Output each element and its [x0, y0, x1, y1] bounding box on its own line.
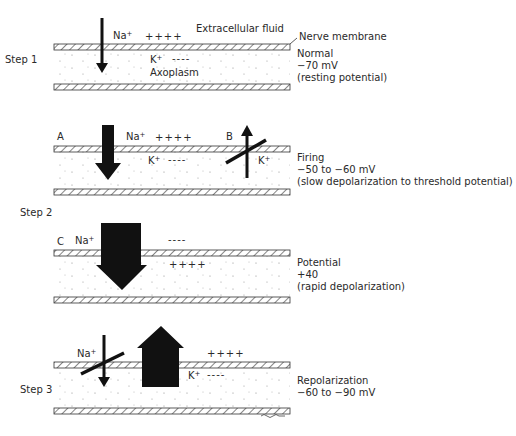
- step1-label: Step 1: [5, 54, 37, 66]
- step2c-state-name: Potential: [297, 257, 341, 269]
- step2a-k2-label: K+: [258, 155, 270, 167]
- k-text: K: [148, 155, 155, 166]
- na-sup: +: [140, 131, 146, 139]
- step1-outside-charge: ++++: [145, 31, 183, 43]
- step3-panel: [54, 326, 290, 418]
- nerve-membrane-label: Nerve membrane: [299, 31, 387, 43]
- step3-state-value: −60 to −90 mV: [297, 387, 375, 399]
- panel-letter-a: A: [57, 131, 64, 143]
- na-text: Na: [126, 131, 140, 142]
- na-sup: +: [91, 348, 97, 356]
- k-sup: +: [155, 155, 161, 163]
- step2a-state-value: −50 to −60 mV: [297, 164, 375, 176]
- step1-k-label: K+: [150, 54, 162, 66]
- na-text: Na: [75, 235, 89, 246]
- step1-inside-charge: ----: [172, 53, 190, 65]
- step2c-membrane-bottom: [54, 297, 290, 303]
- step3-membrane-bottom: [54, 408, 290, 414]
- step2a-k-label: K+: [148, 155, 160, 167]
- step2a-state-note: (slow depolarization to threshold potent…: [297, 176, 513, 188]
- step2a-state-name: Firing: [297, 152, 324, 164]
- k-text: K: [150, 54, 157, 65]
- signature-scribble: [261, 415, 285, 418]
- step2c-state-value: +40: [297, 269, 318, 281]
- k-sup: +: [265, 155, 271, 163]
- extracellular-fluid-label: Extracellular fluid: [196, 23, 284, 35]
- step2a-outside-charge: ++++: [155, 132, 193, 144]
- step2c-inside-charge: ++++: [169, 259, 207, 271]
- step1-state-name: Normal: [297, 48, 333, 60]
- na-text: Na: [113, 30, 127, 41]
- na-text: Na: [77, 348, 91, 359]
- step2c-state-note: (rapid depolarization): [297, 281, 405, 293]
- step2c-na-label: Na+: [75, 235, 94, 247]
- step2c-membrane-top: [54, 250, 290, 256]
- step3-label: Step 3: [20, 384, 52, 396]
- step2-label: Step 2: [20, 207, 52, 219]
- step3-outside-charge: ++++: [207, 348, 245, 360]
- step3-large-k-arrow-icon: [137, 326, 184, 387]
- k-sup: +: [157, 54, 163, 62]
- k-text: K: [188, 370, 195, 381]
- na-sup: +: [89, 235, 95, 243]
- step3-inside-charge: ----: [207, 369, 225, 381]
- step3-k-label: K+: [188, 370, 200, 382]
- step2a-na-label: Na+: [126, 131, 145, 143]
- panel-letter-b: B: [226, 131, 233, 143]
- step3-na-label: Na+: [77, 348, 96, 360]
- na-sup: +: [127, 30, 133, 38]
- step3-state-name: Repolarization: [297, 375, 368, 387]
- step1-state-value: −70 mV: [297, 60, 338, 72]
- step2a-membrane-bottom: [54, 189, 290, 195]
- step1-membrane-top: [54, 44, 290, 50]
- step1-state-note: (resting potential): [297, 72, 387, 84]
- step1-na-label: Na+: [113, 30, 132, 42]
- axoplasm-label: Axoplasm: [150, 67, 199, 79]
- k-sup: +: [195, 370, 201, 378]
- k-text: K: [258, 155, 265, 166]
- step1-membrane-bottom: [54, 84, 290, 90]
- diagram-canvas: [0, 0, 516, 436]
- step2a-inside-charge: ----: [168, 154, 186, 166]
- nerve-membrane-leader: [290, 38, 297, 44]
- step2c-outside-charge: ----: [168, 234, 186, 246]
- panel-letter-c: C: [57, 236, 64, 248]
